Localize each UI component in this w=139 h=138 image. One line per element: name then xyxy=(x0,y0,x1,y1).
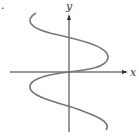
x-axis-arrow-icon xyxy=(122,70,128,74)
y-axis-label: y xyxy=(65,0,73,13)
figure-marker: . xyxy=(1,0,5,12)
x-axis-label: x xyxy=(130,66,137,79)
graph-figure: . x y xyxy=(0,0,139,138)
y-axis-arrow-icon xyxy=(67,14,71,20)
